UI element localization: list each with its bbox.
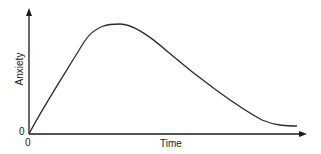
y-axis-label: Anxiety — [15, 52, 25, 86]
x-axis-arrow-icon — [299, 131, 307, 137]
x-axis-label: Time — [160, 139, 182, 149]
y-axis-arrow-icon — [26, 8, 32, 16]
x-origin-label: 0 — [25, 138, 31, 148]
y-origin-label: 0 — [19, 127, 25, 137]
chart-canvas — [0, 0, 321, 154]
anxiety-curve — [29, 24, 297, 134]
